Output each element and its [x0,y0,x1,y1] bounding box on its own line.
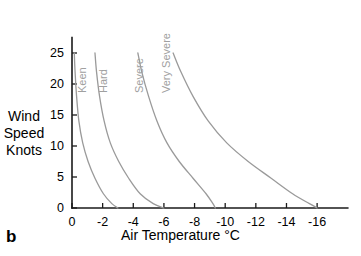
curve-label-hard: Hard [98,69,109,93]
x-tick-label: -16 [300,216,334,229]
y-tick-label: 15 [38,109,64,122]
x-tick-label: -4 [116,216,150,229]
y-tick-label: 10 [38,140,64,153]
x-tick-label: -12 [239,216,273,229]
panel-label: b [6,228,16,245]
curve-label-severe: Severe [134,58,145,93]
y-tick-label: 20 [38,78,64,91]
curve-label-keen: Keen [77,67,88,93]
x-tick-label: -14 [269,216,303,229]
y-tick-label: 5 [38,171,64,184]
y-tick-label: 0 [38,202,64,215]
x-tick-label: 0 [55,216,89,229]
x-axis-title: Air Temperature °C [0,228,361,242]
x-tick-label: -8 [178,216,212,229]
figure-panel: Wind Speed Knots Air Temperature °C b 05… [0,0,361,256]
y-tick-label: 25 [38,47,64,60]
curve-severe [138,53,215,208]
x-tick-label: -10 [208,216,242,229]
curve-label-very-severe: Very Severe [161,33,172,93]
x-tick-label: -2 [86,216,120,229]
curve-very-severe [173,53,317,208]
x-tick-label: -6 [147,216,181,229]
